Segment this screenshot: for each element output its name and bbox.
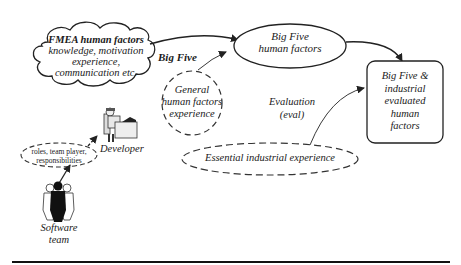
bigfive-ellipse-label: Big Five human factors xyxy=(246,31,334,54)
software-team-line1: Software xyxy=(34,222,84,234)
result-box-line4: human xyxy=(367,108,443,121)
arrow-bigfive-to-result xyxy=(346,42,402,61)
developer-label: Developer xyxy=(100,143,144,154)
software-team-label: Software team xyxy=(34,222,84,246)
arrow-roles-to-developer xyxy=(88,136,97,146)
general-ellipse-line3: experience xyxy=(160,108,224,120)
general-ellipse-line2: human factors xyxy=(160,96,224,108)
fmea-cloud-line3: communication etc. xyxy=(38,67,154,78)
evaluation-line1: Evaluation xyxy=(262,96,322,109)
roles-ellipse-line2: responsibilities xyxy=(22,157,96,166)
result-box-line5: factors xyxy=(367,120,443,133)
result-box-line3: evaluated xyxy=(367,95,443,108)
evaluation-line2: (eval) xyxy=(262,109,322,122)
bigfive-ellipse-line1: Big Five xyxy=(246,31,334,43)
result-box-line1: Big Five & xyxy=(367,70,443,83)
fmea-cloud-label: FMEA human factors knowledge, motivation… xyxy=(38,34,154,78)
essential-ellipse-label: Essential industrial experience xyxy=(182,152,358,163)
developer-icon xyxy=(104,108,137,142)
software-team-line2: team xyxy=(34,234,84,246)
roles-ellipse-label: roles, team player, responsibilities xyxy=(22,148,96,165)
arrow-general-to-bigfive xyxy=(198,52,226,70)
result-box-label: Big Five & industrial evaluated human fa… xyxy=(367,70,443,133)
bigfive-ellipse-line2: human factors xyxy=(246,43,334,55)
fmea-cloud-title: FMEA human factors xyxy=(38,34,154,45)
general-ellipse-label: General human factors experience xyxy=(160,84,224,120)
fmea-cloud-line2: experience, xyxy=(38,56,154,67)
fmea-cloud-line1: knowledge, motivation xyxy=(38,45,154,56)
software-team-icon xyxy=(43,182,74,223)
evaluation-label: Evaluation (eval) xyxy=(262,96,322,121)
big-five-arrow-label: Big Five xyxy=(158,52,197,64)
arrow-cloud-to-bigfive xyxy=(150,36,238,44)
result-box-line2: industrial xyxy=(367,83,443,96)
general-ellipse-line1: General xyxy=(160,84,224,96)
